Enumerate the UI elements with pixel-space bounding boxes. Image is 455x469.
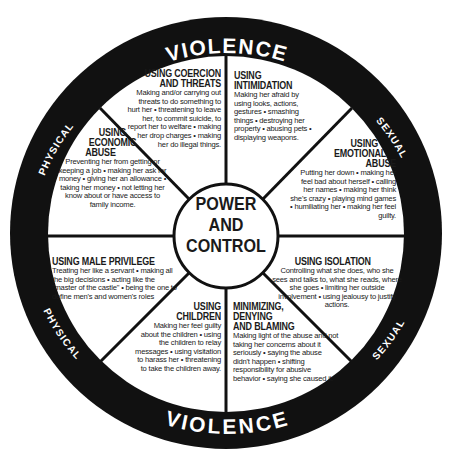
- segment-body: Treating her like a servant • making all…: [52, 267, 180, 301]
- segment-body: Making light of the abuse and not taking…: [233, 332, 339, 384]
- hub-line-control: CONTROL: [184, 235, 269, 256]
- hub-title: POWER AND CONTROL: [184, 193, 269, 256]
- hub-line-and: AND: [184, 214, 269, 235]
- segment-body: Making her feel guilty about the childre…: [135, 322, 221, 374]
- segment-title: ABUSE: [62, 147, 139, 157]
- segment-male-privilege: USING MALE PRIVILEGE Treating her like a…: [52, 256, 180, 301]
- segment-title: USING MALE PRIVILEGE: [52, 256, 161, 266]
- segment-intimidation: USING INTIMIDATION Making her afraid by …: [234, 70, 314, 143]
- segment-title: AND THREATS: [140, 78, 221, 88]
- segment-economic-abuse: USING ECONOMIC ABUSE Preventing her from…: [55, 127, 170, 210]
- segment-title: CHILDREN: [148, 311, 221, 321]
- segment-title: AND BLAMING: [233, 321, 323, 331]
- segment-title: ABUSE: [306, 158, 396, 168]
- segment-minimizing-denying-blaming: MINIMIZING, DENYING AND BLAMING Making l…: [233, 301, 339, 384]
- hub-line-power: POWER: [184, 193, 269, 214]
- segment-body: Putting her down • making her feel bad a…: [290, 169, 396, 221]
- segment-body: Preventing her from getting or keeping a…: [55, 158, 170, 210]
- segment-title: USING ISOLATION: [295, 256, 394, 266]
- segment-title: INTIMIDATION: [234, 80, 302, 90]
- segment-body: Making her afraid by using looks, action…: [234, 91, 314, 143]
- segment-emotional-abuse: USING EMOTIONAL ABUSE Putting her down •…: [290, 138, 396, 221]
- segment-children: USING CHILDREN Making her feel guilty ab…: [135, 301, 221, 374]
